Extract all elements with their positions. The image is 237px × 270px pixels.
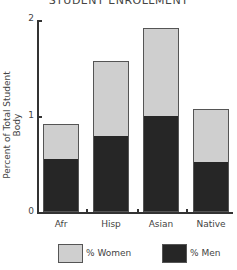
bar-afr	[43, 124, 79, 212]
y-tick-label-2: 2	[24, 13, 34, 23]
x-label-hisp: Hisp	[91, 219, 131, 229]
x-axis	[37, 212, 233, 214]
bar-segment-women	[44, 125, 78, 161]
y-tick-1	[37, 116, 42, 118]
y-tick-label-0: 0	[24, 206, 34, 216]
legend-swatch-men	[162, 244, 187, 263]
bar-segment-women	[94, 62, 128, 138]
legend-swatch-women	[58, 244, 83, 263]
bar-segment-men	[144, 116, 178, 211]
legend-label-women: % Women	[86, 248, 131, 258]
bar-segment-men	[44, 159, 78, 211]
bar-native	[193, 109, 229, 212]
x-label-native: Native	[191, 219, 231, 229]
x-label-afr: Afr	[41, 219, 81, 229]
x-tick	[186, 209, 188, 213]
bar-segment-men	[194, 162, 228, 211]
legend-women: % Women	[58, 243, 131, 263]
x-tick	[137, 209, 139, 213]
bar-segment-men	[94, 136, 128, 211]
bar-segment-women	[144, 29, 178, 118]
x-tick	[86, 209, 88, 213]
chart-title: STUDENT ENROLLMENT	[0, 0, 237, 7]
x-label-asian: Asian	[141, 219, 181, 229]
y-axis-label: Percent of Total Student Body	[2, 65, 22, 185]
legend-men: % Men	[162, 243, 220, 263]
legend-label-men: % Men	[190, 248, 220, 258]
y-tick-2	[37, 20, 42, 22]
bar-segment-women	[194, 110, 228, 164]
y-tick-label-1: 1	[24, 110, 34, 120]
bar-hisp	[93, 61, 129, 212]
bar-asian	[143, 28, 179, 212]
